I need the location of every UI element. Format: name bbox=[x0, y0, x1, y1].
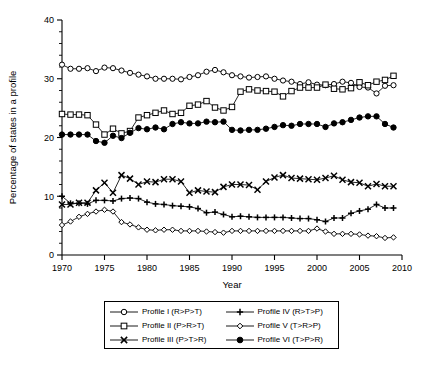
marker-open-square bbox=[365, 83, 370, 88]
series-2 bbox=[59, 73, 396, 137]
marker-filled-circle bbox=[348, 117, 353, 122]
marker-open-square bbox=[374, 79, 379, 84]
x-tick-label: 1990 bbox=[222, 263, 242, 273]
x-tick-label: 2010 bbox=[392, 263, 412, 273]
marker-filled-circle bbox=[93, 138, 98, 143]
marker-open-circle bbox=[221, 70, 226, 75]
marker-filled-circle bbox=[297, 121, 302, 126]
marker-filled-circle bbox=[246, 127, 251, 132]
marker-open-diamond bbox=[85, 211, 90, 216]
marker-open-diamond bbox=[382, 235, 387, 240]
marker-filled-circle bbox=[195, 121, 200, 126]
marker-open-diamond bbox=[144, 227, 149, 232]
series-3 bbox=[59, 172, 397, 207]
marker-open-square bbox=[93, 122, 98, 127]
marker-open-square bbox=[246, 87, 251, 92]
marker-filled-circle bbox=[229, 127, 234, 132]
marker-open-square bbox=[178, 110, 183, 115]
marker-open-square bbox=[382, 77, 387, 82]
legend-marker-x-icon bbox=[109, 334, 139, 346]
marker-open-circle bbox=[374, 91, 379, 96]
legend-item: Profile IV (R>T>P) bbox=[225, 305, 335, 319]
chart-legend: Profile I (R>P>T)Profile IV (R>T>P)Profi… bbox=[104, 301, 339, 349]
marker-open-square bbox=[195, 102, 200, 107]
marker-open-square bbox=[280, 94, 285, 99]
marker-filled-circle bbox=[221, 119, 226, 124]
legend-item: Profile II (P>R>T) bbox=[109, 319, 219, 333]
marker-filled-circle bbox=[340, 120, 345, 125]
marker-open-circle bbox=[195, 73, 200, 78]
marker-open-circle bbox=[382, 83, 387, 88]
marker-filled-circle bbox=[237, 337, 243, 343]
chart-figure: 0102030401970197519801985199019952000200… bbox=[0, 0, 423, 366]
marker-open-circle bbox=[153, 76, 158, 81]
marker-open-diamond bbox=[204, 229, 209, 234]
marker-open-diamond bbox=[237, 323, 243, 329]
marker-open-diamond bbox=[272, 228, 277, 233]
marker-filled-circle bbox=[357, 115, 362, 120]
legend-label: Profile II (P>R>T) bbox=[142, 320, 204, 332]
marker-open-circle bbox=[289, 79, 294, 84]
marker-open-diamond bbox=[263, 228, 268, 233]
marker-open-diamond bbox=[170, 227, 175, 232]
marker-filled-circle bbox=[255, 127, 260, 132]
marker-open-circle bbox=[121, 309, 126, 314]
marker-open-diamond bbox=[136, 225, 141, 230]
marker-open-square bbox=[187, 103, 192, 108]
marker-filled-circle bbox=[144, 127, 149, 132]
marker-filled-circle bbox=[289, 123, 294, 128]
y-tick-label: 20 bbox=[44, 133, 54, 143]
marker-open-diamond bbox=[297, 228, 302, 233]
marker-open-diamond bbox=[68, 219, 73, 224]
marker-filled-circle bbox=[170, 121, 175, 126]
marker-open-square bbox=[314, 85, 319, 90]
marker-open-diamond bbox=[348, 231, 353, 236]
marker-filled-circle bbox=[102, 140, 107, 145]
y-tick-label: 10 bbox=[44, 192, 54, 202]
marker-open-diamond bbox=[238, 228, 243, 233]
x-axis-title: Year bbox=[222, 279, 241, 290]
marker-open-diamond bbox=[178, 228, 183, 233]
x-tick-label: 1985 bbox=[179, 263, 199, 273]
marker-filled-circle bbox=[323, 124, 328, 129]
marker-open-square bbox=[68, 112, 73, 117]
marker-filled-circle bbox=[187, 121, 192, 126]
marker-filled-circle bbox=[178, 120, 183, 125]
marker-open-square bbox=[348, 85, 353, 90]
legend-label: Profile VI (T>P>R) bbox=[258, 334, 323, 346]
marker-open-diamond bbox=[340, 231, 345, 236]
marker-filled-circle bbox=[161, 127, 166, 132]
marker-open-square bbox=[357, 80, 362, 85]
marker-open-diamond bbox=[374, 234, 379, 239]
y-axis-title: Percentage of states in a profile bbox=[7, 71, 18, 205]
axes-layer bbox=[57, 20, 402, 260]
marker-filled-circle bbox=[391, 125, 396, 130]
legend-item: Profile VI (T>P>R) bbox=[225, 333, 335, 347]
marker-open-circle bbox=[119, 68, 124, 73]
marker-open-diamond bbox=[391, 235, 396, 240]
marker-open-diamond bbox=[314, 226, 319, 231]
marker-open-square bbox=[340, 87, 345, 92]
marker-open-diamond bbox=[59, 222, 64, 227]
marker-open-square bbox=[204, 98, 209, 103]
marker-open-square bbox=[121, 323, 127, 329]
marker-open-circle bbox=[127, 70, 132, 75]
marker-open-square bbox=[85, 112, 90, 117]
marker-open-circle bbox=[93, 69, 98, 74]
marker-filled-circle bbox=[314, 121, 319, 126]
marker-filled-circle bbox=[68, 132, 73, 137]
marker-open-square bbox=[102, 132, 107, 137]
marker-filled-circle bbox=[136, 125, 141, 130]
marker-open-square bbox=[272, 89, 277, 94]
marker-open-circle bbox=[68, 66, 73, 71]
marker-open-diamond bbox=[229, 228, 234, 233]
x-tick-label: 1970 bbox=[52, 263, 72, 273]
marker-open-circle bbox=[144, 74, 149, 79]
marker-filled-circle bbox=[374, 114, 379, 119]
series-5 bbox=[59, 207, 396, 241]
marker-open-diamond bbox=[93, 209, 98, 214]
x-tick-label: 1980 bbox=[137, 263, 157, 273]
marker-open-circle bbox=[76, 66, 81, 71]
marker-open-circle bbox=[161, 76, 166, 81]
marker-open-square bbox=[229, 104, 234, 109]
